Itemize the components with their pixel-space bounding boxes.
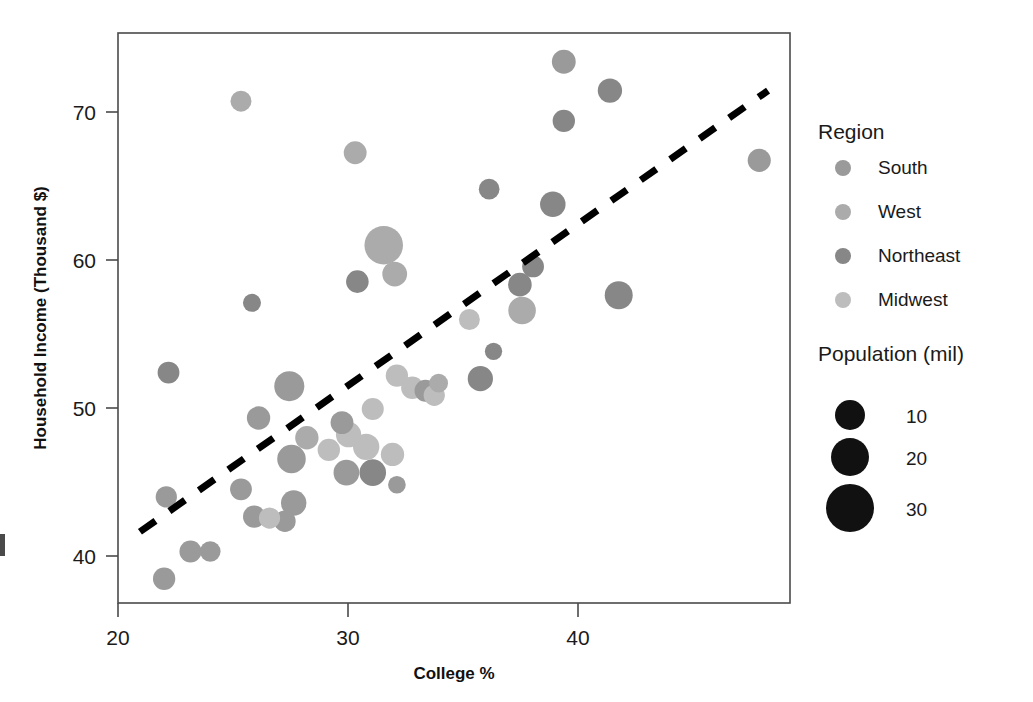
data-point: [748, 149, 771, 172]
region-legend-label[interactable]: Midwest: [878, 289, 948, 310]
data-point: [508, 273, 532, 297]
data-point: [479, 179, 500, 200]
data-point: [259, 507, 280, 528]
y-tick-label-60: 60: [73, 249, 96, 272]
data-point: [552, 50, 576, 74]
data-point: [153, 568, 175, 590]
region-legend-label[interactable]: West: [878, 201, 922, 222]
data-point: [334, 460, 360, 486]
data-point: [362, 398, 384, 420]
data-point: [344, 141, 367, 164]
data-point: [359, 459, 386, 486]
y-axis-tick-labels: 70 60 50 40: [73, 101, 96, 568]
x-tick-label-30: 30: [336, 626, 359, 649]
y-tick-label-70: 70: [73, 101, 96, 124]
data-point: [605, 281, 633, 309]
data-point: [598, 78, 622, 102]
data-point: [200, 541, 221, 562]
data-point: [553, 110, 575, 132]
size-legend-items: 102030: [826, 400, 927, 532]
size-legend-label[interactable]: 30: [906, 499, 927, 520]
data-point: [540, 192, 565, 217]
x-axis-tick-labels: 20 30 40: [106, 626, 589, 649]
data-point: [508, 297, 536, 325]
region-legend-label[interactable]: Northeast: [878, 245, 961, 266]
data-point: [429, 374, 448, 393]
x-tick-label-40: 40: [566, 626, 589, 649]
size-legend-swatch[interactable]: [831, 438, 869, 476]
data-point: [381, 443, 404, 466]
x-tick-label-20: 20: [106, 626, 129, 649]
data-point: [274, 371, 304, 401]
data-point: [277, 445, 306, 474]
bubble-layer: [153, 50, 771, 590]
y-tick-label-50: 50: [73, 397, 96, 420]
data-point: [179, 540, 201, 562]
x-axis-ticks: [118, 603, 578, 617]
y-axis-ticks: [106, 112, 118, 556]
data-point: [158, 362, 180, 384]
data-point: [364, 226, 403, 265]
plot-frame: [118, 33, 790, 603]
region-legend-swatch[interactable]: [835, 160, 851, 176]
size-legend-swatch[interactable]: [835, 400, 865, 430]
trend-line: [140, 91, 768, 532]
data-point: [346, 270, 369, 293]
data-point: [382, 262, 407, 287]
data-point: [331, 411, 354, 434]
region-legend: Region SouthWestNortheastMidwest: [818, 120, 961, 310]
region-legend-items: SouthWestNortheastMidwest: [835, 157, 961, 310]
bubble-chart-figure: 70 60 50 40 20 30 40 College % Household…: [0, 0, 1033, 702]
data-point: [468, 366, 493, 391]
y-axis-title: Household Income (Thousand $): [31, 186, 50, 450]
region-legend-swatch[interactable]: [835, 248, 851, 264]
size-legend-swatch[interactable]: [826, 484, 874, 532]
data-point: [230, 478, 252, 500]
y-tick-label-40: 40: [73, 545, 96, 568]
region-legend-swatch[interactable]: [835, 204, 851, 220]
data-point: [459, 309, 480, 330]
size-legend-title: Population (mil): [818, 342, 964, 365]
size-legend: Population (mil) 102030: [818, 342, 964, 532]
data-point: [247, 406, 270, 429]
data-point: [231, 91, 252, 112]
region-legend-title: Region: [818, 120, 885, 143]
x-axis-title: College %: [413, 664, 494, 683]
page-edge-artifact: [0, 534, 5, 556]
plot-canvas: 70 60 50 40 20 30 40 College % Household…: [0, 0, 1033, 702]
data-point: [243, 294, 261, 312]
size-legend-label[interactable]: 10: [906, 406, 927, 427]
size-legend-label[interactable]: 20: [906, 448, 927, 469]
region-legend-swatch[interactable]: [835, 292, 851, 308]
data-point: [318, 439, 340, 461]
data-point: [295, 426, 318, 449]
data-point: [388, 476, 406, 494]
region-legend-label[interactable]: South: [878, 157, 928, 178]
data-point: [485, 343, 502, 360]
